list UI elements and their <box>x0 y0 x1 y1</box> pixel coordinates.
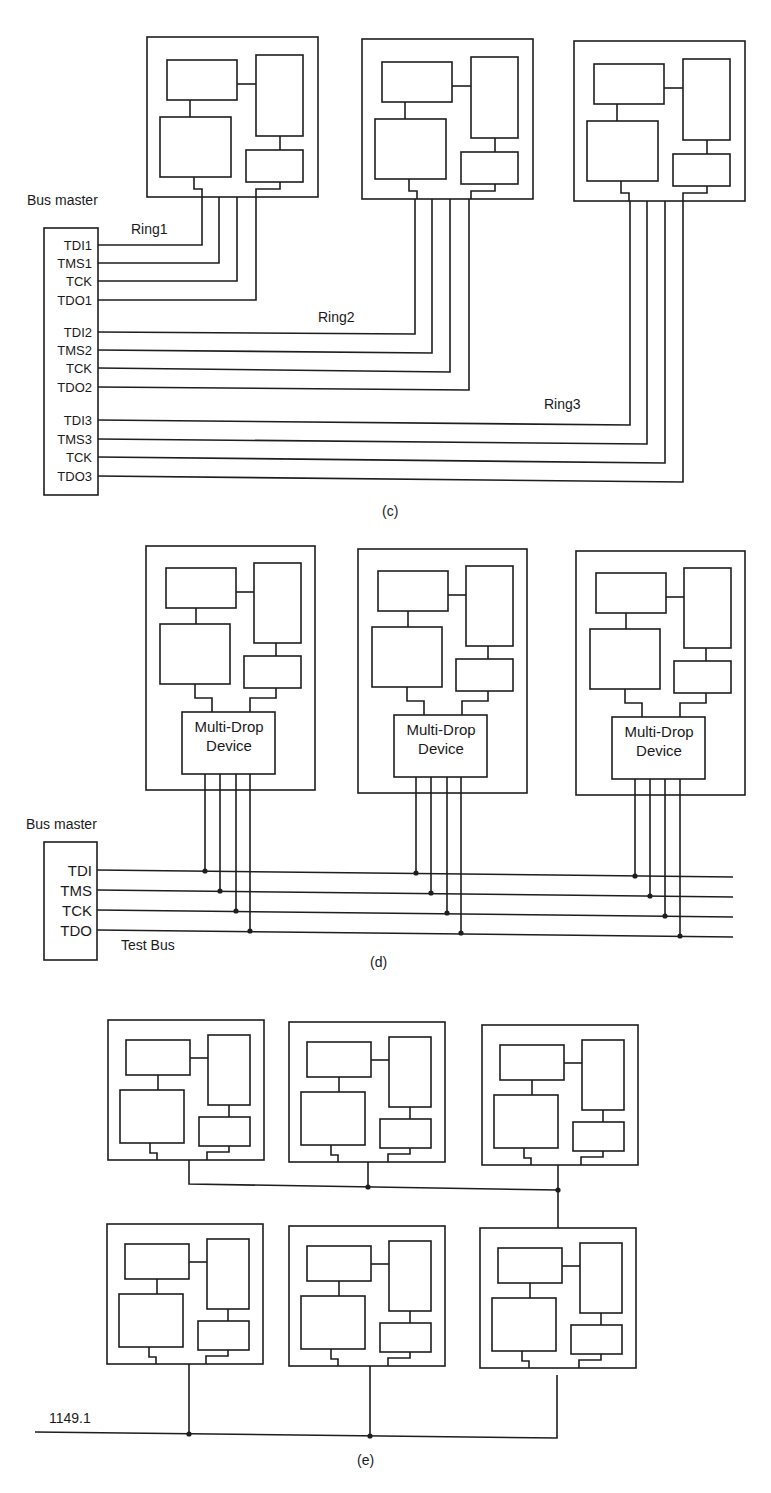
caption-c: (c) <box>382 504 398 518</box>
board-c-2 <box>362 39 533 199</box>
caption-d: (d) <box>370 955 387 969</box>
pin-tck: TCK <box>44 903 92 918</box>
pin-tdi1: TDI1 <box>44 239 92 252</box>
board-e-bottom-1 <box>107 1224 263 1364</box>
pin-tck-ring3: TCK <box>44 451 92 464</box>
board-c-3 <box>574 41 745 201</box>
multi-drop-device-3-line2: Device <box>612 741 706 760</box>
bus-master-d-box <box>44 842 97 960</box>
pin-tdo1: TDO1 <box>44 294 92 307</box>
pin-tdo3: TDO3 <box>44 470 92 483</box>
pin-tdo: TDO <box>44 923 92 938</box>
multi-drop-device-3-line1: Multi-Drop <box>612 722 706 741</box>
panel-e <box>35 1020 638 1439</box>
bus-1149-1 <box>35 1364 557 1439</box>
pin-tdi2: TDI2 <box>44 326 92 339</box>
board-c-1 <box>147 37 318 197</box>
ring1-wires <box>98 197 256 300</box>
pin-tdi3: TDI3 <box>44 414 92 427</box>
pin-tck-ring1: TCK <box>44 275 92 288</box>
ring2-label: Ring2 <box>318 310 355 324</box>
top-row-bus <box>189 1160 561 1228</box>
multi-drop-device-2-line1: Multi-Drop <box>394 720 488 739</box>
multi-drop-device-1-line2: Device <box>182 736 276 755</box>
multi-drop-device-2-line2: Device <box>394 739 488 758</box>
ring3-label: Ring3 <box>544 397 581 411</box>
pin-tdi: TDI <box>44 863 92 878</box>
pin-tdo2: TDO2 <box>44 381 92 394</box>
pin-tms: TMS <box>44 883 92 898</box>
pin-tck-ring2: TCK <box>44 362 92 375</box>
ring1-label: Ring1 <box>131 222 168 236</box>
bus-master-label-d: Bus master <box>26 817 97 831</box>
caption-e: (e) <box>357 1453 374 1467</box>
bus-master-label-c: Bus master <box>27 193 98 207</box>
drops-board-d-1 <box>202 774 252 934</box>
board-e-top-2 <box>289 1022 445 1162</box>
pin-tms2: TMS2 <box>44 344 92 357</box>
board-e-top-3 <box>482 1025 638 1165</box>
bus-1149-1-label: 1149.1 <box>49 1411 91 1425</box>
pin-tms3: TMS3 <box>44 433 92 446</box>
test-bus-lines <box>97 870 733 937</box>
board-e-bottom-3 <box>480 1228 636 1368</box>
board-e-top-1 <box>108 1020 264 1160</box>
ring3-wires <box>98 201 683 482</box>
test-bus-label: Test Bus <box>121 938 175 952</box>
drops-board-d-2 <box>413 777 463 936</box>
pin-tms1: TMS1 <box>44 257 92 270</box>
multi-drop-device-1-line1: Multi-Drop <box>182 717 276 736</box>
drops-board-d-3 <box>632 779 682 939</box>
panel-c <box>44 37 745 495</box>
board-e-bottom-2 <box>289 1226 445 1366</box>
